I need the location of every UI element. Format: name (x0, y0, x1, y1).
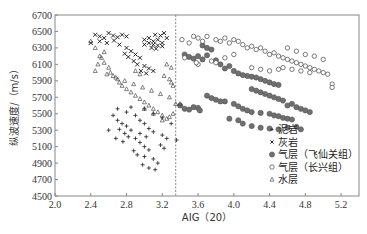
legend-label: 水层 (278, 174, 298, 185)
y-tick-label: 6300 (32, 42, 52, 53)
y-tick-label: 6500 (32, 26, 52, 37)
y-tick-label: 5300 (32, 125, 52, 136)
y-tick-label: 6700 (32, 10, 52, 21)
x-tick-label: 5.2 (335, 199, 348, 210)
x-axis-title: AIG（20） (182, 212, 232, 223)
y-tick-label: 6100 (32, 59, 52, 70)
legend-label: 气层（飞仙关组） (278, 148, 358, 160)
y-tick-label: 4900 (32, 158, 52, 169)
y-axis-title: 纵波速度/（m/s） (8, 64, 20, 146)
scatter-chart: 4500470049005100530055005700590061006300… (0, 0, 367, 234)
legend-label: 灰岩 (278, 136, 298, 148)
x-tick-label: 4.0 (228, 199, 241, 210)
y-tick-label: 5500 (32, 108, 52, 119)
y-tick-label: 4700 (32, 174, 52, 185)
x-tick-label: 2.0 (49, 199, 62, 210)
x-tick-label: 4.8 (299, 199, 312, 210)
legend-item: 气层（长兴组） (270, 161, 348, 173)
x-tick-label: 3.6 (192, 199, 205, 210)
x-tick-label: 3.2 (156, 199, 169, 210)
legend-item: 气层（飞仙关组） (269, 148, 358, 160)
y-axis-ticks: 4500470049005100530055005700590061006300… (32, 10, 58, 202)
y-tick-label: 5100 (32, 141, 52, 152)
x-tick-label: 2.4 (85, 199, 98, 210)
y-tick-label: 5900 (32, 75, 52, 86)
x-tick-label: 2.8 (120, 199, 133, 210)
y-tick-label: 5700 (32, 92, 52, 103)
x-tick-label: 4.4 (263, 199, 276, 210)
legend-label: 气层（长兴组） (278, 161, 348, 173)
legend-label: 泥岩 (278, 123, 298, 135)
